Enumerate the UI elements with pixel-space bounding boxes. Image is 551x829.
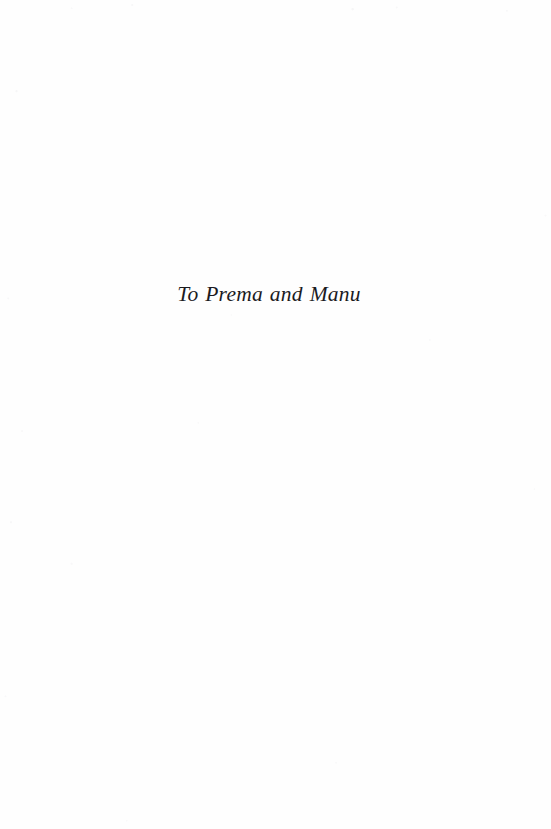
dedication-page: To Prema and Manu	[0, 0, 551, 829]
dedication-text: To Prema and Manu	[0, 281, 551, 307]
paper-grain-texture	[0, 0, 551, 829]
